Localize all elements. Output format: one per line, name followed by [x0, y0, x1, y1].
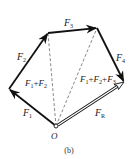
- label-f2: F2: [16, 51, 26, 63]
- force-polygon-diagram: F1 F2 F3 F4 FR F1+F2 F1+F2+F3 O (b): [0, 0, 138, 159]
- label-fr: FR: [94, 107, 105, 119]
- figure-caption: (b): [64, 146, 74, 155]
- label-f4: F4: [115, 52, 125, 64]
- label-f1: F1: [22, 107, 32, 119]
- partial-sum-f1-f2-line: [48, 33, 56, 126]
- origin-point: [54, 124, 58, 128]
- resultant-vector-fr: [58, 82, 124, 125]
- label-sum-f1-f2-f3: F1+F2+F3: [79, 74, 116, 85]
- vector-f1: [10, 90, 56, 126]
- label-origin: O: [51, 131, 58, 141]
- label-sum-f1-f2: F1+F2: [24, 78, 47, 89]
- label-f3: F3: [63, 17, 73, 29]
